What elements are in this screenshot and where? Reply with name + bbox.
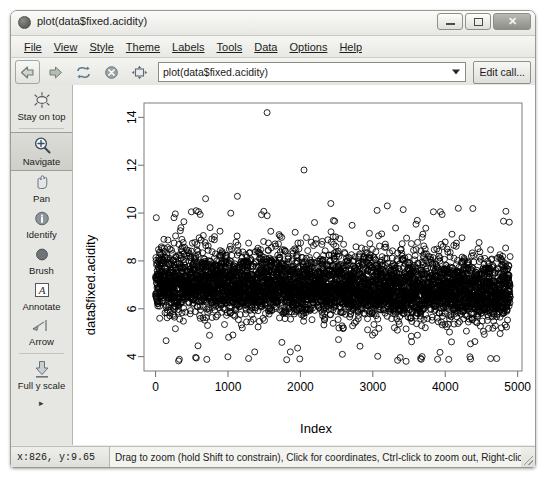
menu-tools[interactable]: Tools bbox=[211, 39, 249, 55]
menu-file[interactable]: File bbox=[18, 39, 48, 55]
pan-hand-icon bbox=[32, 174, 52, 191]
close-icon: ✕ bbox=[494, 14, 530, 29]
data-points bbox=[153, 110, 514, 365]
window-title: plot(data$fixed.acidity) bbox=[37, 15, 147, 27]
menu-view-label: View bbox=[54, 41, 78, 53]
stop-button[interactable] bbox=[99, 60, 124, 84]
sidebar-item-arrow-label: Arrow bbox=[29, 336, 54, 347]
y-axis-label: data$fixed.acidity bbox=[83, 234, 98, 335]
chevron-down-icon[interactable] bbox=[452, 70, 460, 75]
stop-icon bbox=[103, 65, 120, 80]
svg-text:6: 6 bbox=[125, 305, 139, 312]
forward-button[interactable] bbox=[43, 60, 68, 84]
sidebar-item-annotate[interactable]: A Annotate bbox=[11, 279, 72, 315]
sidebar-item-pan[interactable]: Pan bbox=[11, 171, 72, 207]
plot-window: plot(data$fixed.acidity) ✕ File View Sty… bbox=[10, 10, 536, 468]
menubar: File View Style Theme Labels Tools Data … bbox=[11, 36, 535, 58]
brush-dot-icon bbox=[33, 246, 51, 263]
letter-a-icon: A bbox=[33, 282, 51, 299]
app-icon bbox=[18, 16, 31, 29]
menu-theme-label: Theme bbox=[126, 41, 160, 53]
svg-text:A: A bbox=[37, 284, 45, 296]
sidebar-item-brush[interactable]: Brush bbox=[11, 243, 72, 279]
sidebar-item-identify[interactable]: Identify bbox=[11, 207, 72, 243]
command-input-value: plot(data$fixed.acidity) bbox=[163, 66, 268, 78]
sidebar-divider-1 bbox=[19, 128, 64, 129]
magnifier-plus-icon bbox=[32, 136, 52, 154]
toolbar: plot(data$fixed.acidity) Edit call... bbox=[11, 58, 535, 87]
screenshot-root: plot(data$fixed.acidity) ✕ File View Sty… bbox=[0, 0, 546, 480]
svg-text:12: 12 bbox=[125, 158, 139, 172]
svg-text:4: 4 bbox=[125, 353, 139, 360]
statusbar: x:826, y:9.65 Drag to zoom (hold Shift t… bbox=[11, 446, 535, 467]
menu-labels[interactable]: Labels bbox=[166, 39, 210, 55]
sidebar-item-full-y-scale-label: Full y scale bbox=[18, 380, 66, 391]
down-arrow-scale-icon bbox=[32, 360, 52, 378]
menu-file-label: File bbox=[24, 41, 42, 53]
cursor-coordinates: x:826, y:9.65 bbox=[11, 452, 109, 463]
window-titlebar[interactable]: plot(data$fixed.acidity) ✕ bbox=[11, 11, 535, 36]
fit-to-window-button[interactable] bbox=[127, 60, 152, 84]
menu-options-label: Options bbox=[289, 41, 327, 53]
menu-help-label: Help bbox=[339, 41, 362, 53]
sidebar-item-navigate[interactable]: Navigate bbox=[11, 132, 72, 171]
sidebar-item-identify-label: Identify bbox=[26, 229, 57, 240]
menu-tools-label: Tools bbox=[217, 41, 243, 53]
svg-text:5000: 5000 bbox=[504, 380, 531, 394]
window-body: Stay on top Navigate Pan bbox=[11, 85, 535, 445]
maximize-icon bbox=[466, 14, 490, 29]
sidebar-more-button[interactable]: ▸ bbox=[11, 394, 72, 412]
back-arrow-icon bbox=[19, 65, 36, 80]
menu-labels-label: Labels bbox=[172, 41, 204, 53]
svg-text:0: 0 bbox=[152, 380, 159, 394]
fit-to-window-icon bbox=[131, 65, 148, 80]
plot-panel[interactable]: data$fixed.acidity Index 468101214 01000… bbox=[73, 85, 535, 445]
svg-text:10: 10 bbox=[125, 206, 139, 220]
close-button[interactable]: ✕ bbox=[493, 13, 531, 30]
refresh-icon bbox=[75, 65, 92, 80]
sidebar-divider-2 bbox=[19, 353, 64, 354]
svg-text:14: 14 bbox=[125, 110, 139, 124]
minimize-icon bbox=[438, 14, 462, 29]
back-button[interactable] bbox=[15, 60, 40, 84]
svg-text:4000: 4000 bbox=[432, 380, 459, 394]
menu-view[interactable]: View bbox=[48, 39, 84, 55]
edit-call-label: Edit call... bbox=[479, 66, 525, 78]
menu-help[interactable]: Help bbox=[333, 39, 368, 55]
svg-text:2000: 2000 bbox=[287, 380, 314, 394]
info-circle-icon bbox=[33, 210, 51, 227]
resize-grip-icon[interactable] bbox=[521, 447, 535, 467]
maximize-button[interactable] bbox=[465, 13, 491, 30]
x-axis-ticks: 010002000300040005000 bbox=[152, 371, 531, 394]
refresh-button[interactable] bbox=[71, 60, 96, 84]
command-input[interactable]: plot(data$fixed.acidity) bbox=[158, 62, 466, 82]
menu-options[interactable]: Options bbox=[283, 39, 333, 55]
sidebar-item-brush-label: Brush bbox=[29, 265, 54, 276]
menu-data-label: Data bbox=[254, 41, 277, 53]
menu-data[interactable]: Data bbox=[248, 39, 283, 55]
arrow-tool-icon bbox=[31, 318, 53, 334]
sidebar-item-pan-label: Pan bbox=[33, 193, 50, 204]
svg-text:1000: 1000 bbox=[215, 380, 242, 394]
sidebar-item-arrow[interactable]: Arrow bbox=[11, 315, 72, 350]
sidebar-item-stay-on-top[interactable]: Stay on top bbox=[11, 88, 72, 125]
menu-style-label: Style bbox=[89, 41, 113, 53]
edit-call-button[interactable]: Edit call... bbox=[473, 61, 531, 84]
menu-style[interactable]: Style bbox=[83, 39, 119, 55]
status-hint: Drag to zoom (hold Shift to constrain), … bbox=[109, 447, 521, 467]
sidebar-item-full-y-scale[interactable]: Full y scale bbox=[11, 357, 72, 394]
sidebar-item-annotate-label: Annotate bbox=[22, 301, 60, 312]
window-controls: ✕ bbox=[437, 13, 531, 30]
svg-text:3000: 3000 bbox=[359, 380, 386, 394]
x-axis-label: Index bbox=[300, 421, 332, 436]
stay-on-top-icon bbox=[31, 91, 53, 109]
minimize-button[interactable] bbox=[437, 13, 463, 30]
tool-sidebar: Stay on top Navigate Pan bbox=[11, 85, 73, 445]
forward-arrow-icon bbox=[47, 65, 64, 80]
y-axis-ticks: 468101214 bbox=[125, 110, 144, 360]
svg-text:8: 8 bbox=[125, 257, 139, 264]
sidebar-item-stay-on-top-label: Stay on top bbox=[17, 111, 65, 122]
scatter-plot[interactable]: data$fixed.acidity Index 468101214 01000… bbox=[73, 85, 535, 445]
menu-theme[interactable]: Theme bbox=[120, 39, 166, 55]
sidebar-item-navigate-label: Navigate bbox=[23, 156, 61, 167]
